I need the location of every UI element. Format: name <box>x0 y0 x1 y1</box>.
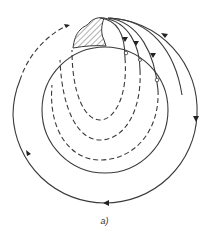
inner-dashed-loop-1 <box>72 50 125 120</box>
arrow-icon-dashed-top <box>64 24 70 28</box>
outer-loop-dashed <box>20 25 68 80</box>
field-line-2 <box>104 18 140 70</box>
inner-dashed-loop-3 <box>52 85 159 160</box>
inner-boundary-circle <box>42 47 168 173</box>
junction-mark <box>155 78 159 82</box>
junction-mark <box>124 51 128 55</box>
arrow-icon-outer-right <box>193 116 199 122</box>
arrow-icon-line-2 <box>133 41 139 46</box>
diagram <box>0 0 209 237</box>
field-line-1 <box>100 18 125 58</box>
figure-caption: a) <box>0 216 209 226</box>
arrow-icon-outer-left <box>26 150 31 156</box>
inner-dashed-loop-2 <box>60 60 140 140</box>
junction-mark <box>139 59 142 62</box>
field-line-4 <box>110 18 182 95</box>
arrow-icon-outer-bottom <box>103 200 109 206</box>
hatched-feature <box>73 18 106 48</box>
